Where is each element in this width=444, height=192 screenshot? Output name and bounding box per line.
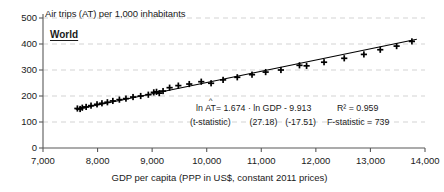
x-tick-label: 11,000	[238, 156, 284, 166]
x-tick-label: 14,000	[402, 156, 444, 166]
t-statistic-row: (t-statistic) (27.18) (-17.51)	[190, 116, 316, 129]
at-hat-symbol: AT	[205, 102, 216, 115]
x-axis-title: GDP per capita (PPP in US$, constant 201…	[0, 172, 439, 183]
t-statistic-intercept: (-17.51)	[285, 117, 316, 127]
f-statistic-label: F-statistic = 739	[327, 116, 389, 129]
x-tick-label: 13,000	[347, 156, 393, 166]
t-statistic-label: (t-statistic)	[190, 117, 231, 127]
r-squared-label: R² = 0.959	[337, 102, 378, 115]
x-tick-label: 12,000	[293, 156, 339, 166]
x-tick-label: 8,000	[75, 156, 121, 166]
regression-equation-body: = 1.674 · ln GDP - 9.913	[216, 103, 311, 113]
t-statistic-slope: (27.18)	[249, 117, 277, 127]
x-tick-label: 10,000	[184, 156, 230, 166]
x-tick-label: 7,000	[20, 156, 66, 166]
x-tick-label: 9,000	[129, 156, 175, 166]
regression-equation: ln AT= 1.674 · ln GDP - 9.913	[196, 102, 311, 115]
